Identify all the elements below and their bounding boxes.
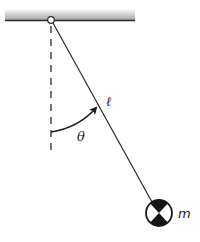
pivot-point xyxy=(48,17,55,24)
angle-label: θ xyxy=(77,129,85,144)
angle-arc-arrow xyxy=(51,108,96,132)
pendulum-bob xyxy=(146,200,172,226)
length-label: ℓ xyxy=(106,94,112,109)
ceiling-support xyxy=(5,10,135,21)
pendulum-diagram: ℓ θ m xyxy=(0,0,200,242)
mass-label: m xyxy=(178,206,191,221)
pendulum-string xyxy=(53,23,152,202)
